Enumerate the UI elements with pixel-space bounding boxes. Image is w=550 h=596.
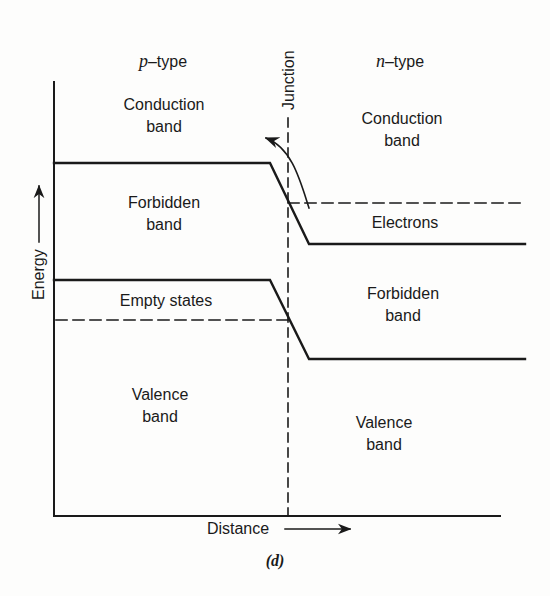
p-type-suffix: –type xyxy=(148,53,187,70)
p-conduction-band-label: Conduction band xyxy=(124,94,205,138)
label-line: Valence xyxy=(132,384,189,406)
n-type-title: n–type xyxy=(376,50,424,73)
distance-label: Distance xyxy=(207,518,269,540)
figure-caption: (d) xyxy=(266,550,285,572)
label-line: band xyxy=(367,305,439,327)
n-valence-band-label: Valence band xyxy=(356,412,413,456)
label-line: Conduction xyxy=(362,108,443,130)
p-forbidden-band-label: Forbidden band xyxy=(128,192,200,236)
label-line: band xyxy=(362,130,443,152)
label-line: Forbidden xyxy=(128,192,200,214)
electrons-label: Electrons xyxy=(372,212,439,234)
label-line: Forbidden xyxy=(367,283,439,305)
label-line: band xyxy=(124,116,205,138)
n-type-suffix: –type xyxy=(385,53,424,70)
label-line: band xyxy=(356,434,413,456)
label-line: band xyxy=(128,214,200,236)
band-diagram-drawing xyxy=(0,0,550,596)
p-type-title: p–type xyxy=(139,50,187,73)
n-type-var: n xyxy=(376,51,385,71)
label-line: Conduction xyxy=(124,94,205,116)
junction-label: Junction xyxy=(280,50,298,110)
empty-states-label: Empty states xyxy=(120,290,212,312)
n-conduction-band-label: Conduction band xyxy=(362,108,443,152)
label-line: Valence xyxy=(356,412,413,434)
n-forbidden-band-label: Forbidden band xyxy=(367,283,439,327)
pn-junction-band-diagram: p–type n–type Junction Energy Conduction… xyxy=(0,0,550,596)
label-line: band xyxy=(132,406,189,428)
energy-label: Energy xyxy=(30,249,48,300)
p-valence-band-label: Valence band xyxy=(132,384,189,428)
p-type-var: p xyxy=(139,51,148,71)
